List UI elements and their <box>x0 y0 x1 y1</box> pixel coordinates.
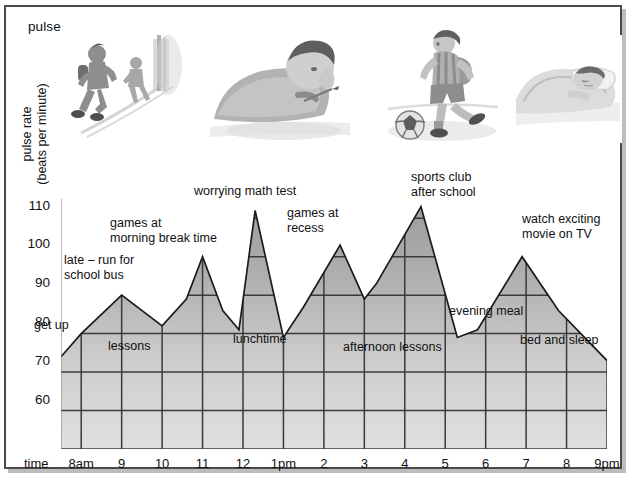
y-tick-110: 110 <box>20 198 50 213</box>
annotation-lessons: lessons <box>108 339 150 354</box>
y-tick-90: 90 <box>20 275 50 290</box>
y-tick-60: 60 <box>20 392 50 407</box>
y-axis-label: pulse rate (beats per minute) <box>20 59 50 209</box>
x-tick-8: 8 <box>547 456 587 471</box>
x-tick-10: 10 <box>142 456 182 471</box>
annotation-evening-meal: evening meal <box>449 304 523 319</box>
y-axis-label-line1: pulse rate <box>20 59 35 209</box>
x-axis-label: time <box>24 456 49 471</box>
x-tick-7: 7 <box>506 456 546 471</box>
chart-frame: pulse rate chart <box>4 5 622 469</box>
x-tick-11: 11 <box>183 456 223 471</box>
annotation-worrying-test: worrying math test <box>194 184 296 199</box>
running-for-bus-sketch <box>61 21 186 141</box>
x-tick-12: 12 <box>223 456 263 471</box>
y-tick-100: 100 <box>20 236 50 251</box>
annotation-watch-tv: watch exciting movie on TV <box>522 212 601 241</box>
x-tick-1pm: 1pm <box>263 456 303 471</box>
sleeping-in-bed-sketch <box>514 35 622 143</box>
annotation-late-run: late – run for school bus <box>64 253 134 282</box>
annotation-bed-sleep: bed and sleep <box>520 333 599 348</box>
playing-soccer-sketch <box>384 21 502 145</box>
y-tick-70: 70 <box>20 353 50 368</box>
x-tick-9pm: 9pm <box>587 456 627 471</box>
annotation-lunchtime: lunchtime <box>233 332 287 347</box>
writing-test-sketch <box>204 23 354 145</box>
x-tick-9: 9 <box>102 456 142 471</box>
x-tick-3: 3 <box>344 456 384 471</box>
y-axis-label-line2: (beats per minute) <box>35 59 50 209</box>
x-tick-2: 2 <box>304 456 344 471</box>
annotation-get-up: get up <box>34 318 69 333</box>
annotation-afternoon-lessons: afternoon lessons <box>343 340 442 355</box>
annotation-games-recess: games at recess <box>287 206 338 235</box>
x-tick-4: 4 <box>385 456 425 471</box>
annotation-sports-club: sports club after school <box>411 170 476 199</box>
x-tick-5: 5 <box>425 456 465 471</box>
x-tick-8am: 8am <box>61 456 101 471</box>
annotation-games-break: games at morning break time <box>110 216 217 245</box>
x-tick-6: 6 <box>466 456 506 471</box>
